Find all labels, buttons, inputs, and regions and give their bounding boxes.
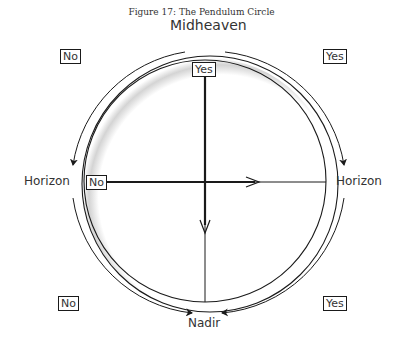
label-horizon-right: Horizon — [336, 174, 382, 188]
answer-box-bottom-right: Yes — [323, 296, 347, 311]
figure-title: Figure 17: The Pendulum Circle — [0, 7, 403, 17]
answer-box-center-left: No — [86, 175, 107, 190]
answer-box-top-left: No — [60, 49, 81, 64]
answer-box-bottom-left: No — [58, 296, 79, 311]
answer-box-top-right: Yes — [323, 49, 347, 64]
label-nadir: Nadir — [188, 316, 220, 330]
answer-box-center-top: Yes — [192, 62, 216, 77]
label-horizon-left: Horizon — [24, 174, 70, 188]
label-midheaven: Midheaven — [170, 17, 247, 33]
